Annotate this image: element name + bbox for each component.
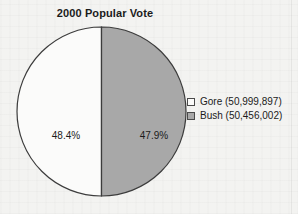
- slice-label-gore: 48.4%: [42, 130, 90, 141]
- bush-swatch-icon: [187, 112, 195, 120]
- gore-swatch-icon: [187, 98, 195, 106]
- chart-title: 2000 Popular Vote: [0, 7, 210, 19]
- slice-label-bush: 47.9%: [130, 130, 178, 141]
- pie-chart-figure: 2000 Popular Vote 48.4% 47.9% Gore (50,9…: [0, 0, 298, 214]
- chart-legend: Gore (50,999,897) Bush (50,456,002): [187, 96, 282, 124]
- page-edge-rule: [291, 0, 292, 214]
- legend-label-bush: Bush (50,456,002): [200, 111, 282, 121]
- legend-item-bush[interactable]: Bush (50,456,002): [187, 110, 282, 122]
- legend-label-gore: Gore (50,999,897): [200, 97, 282, 107]
- pie-slice-bush[interactable]: [102, 27, 187, 196]
- legend-item-gore[interactable]: Gore (50,999,897): [187, 96, 282, 108]
- pie-slice-gore[interactable]: [17, 27, 102, 196]
- pie-plot-area: 48.4% 47.9%: [15, 25, 188, 198]
- pie-svg: [15, 25, 188, 198]
